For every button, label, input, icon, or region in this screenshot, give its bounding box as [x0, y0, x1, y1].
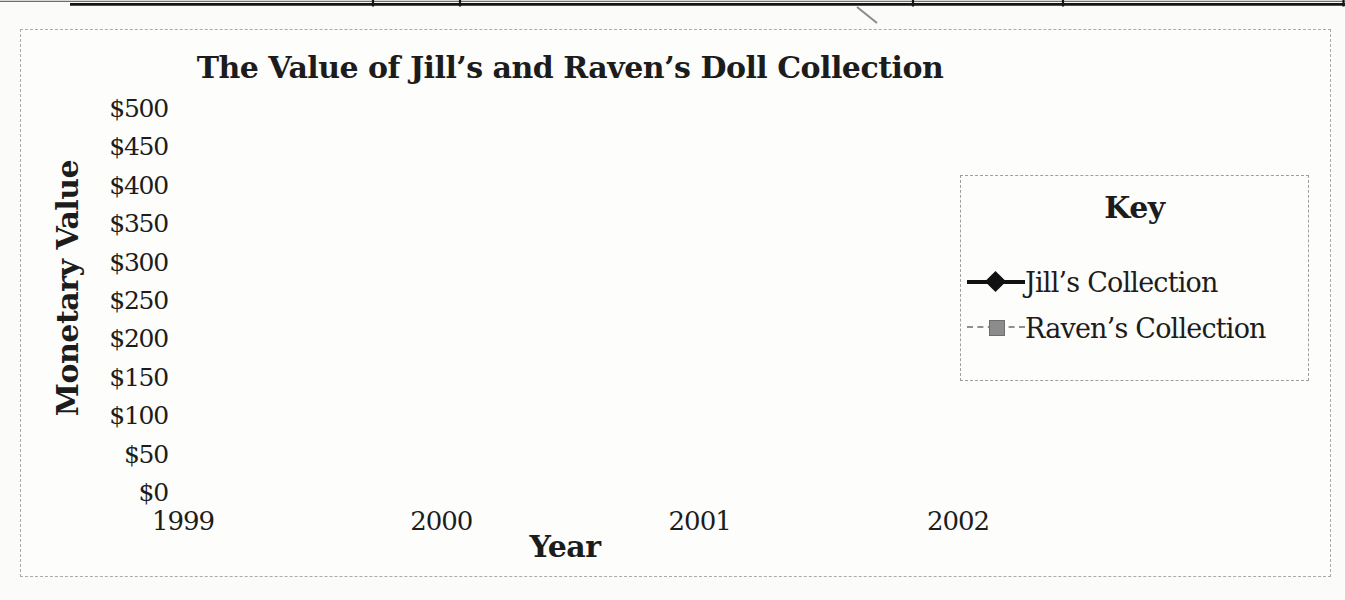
legend-entry-raven: Raven’s Collection: [967, 306, 1302, 350]
jill-line-diamond-icon: [967, 270, 1025, 294]
chart-title: The Value of Jill’s and Raven’s Doll Col…: [175, 50, 965, 90]
y-tick-label: $100: [82, 403, 168, 428]
y-tick-label: $150: [82, 365, 168, 390]
raven-line-square-icon: [967, 316, 1025, 340]
legend-title: Key: [961, 190, 1308, 225]
x-tick-label: 2002: [903, 508, 1013, 534]
pen-mark: [857, 7, 877, 23]
legend-entry-jill: Jill’s Collection: [967, 260, 1302, 304]
legend-label-raven: Raven’s Collection: [1025, 313, 1266, 344]
y-tick-label: $50: [82, 442, 168, 467]
y-tick-label: $200: [82, 326, 168, 351]
y-tick-label: $500: [82, 96, 168, 121]
y-tick-label: $250: [82, 288, 168, 313]
legend-label-jill: Jill’s Collection: [1025, 267, 1218, 298]
y-tick-label: $400: [82, 173, 168, 198]
x-axis-title: Year: [465, 529, 665, 563]
x-tick-label: 1999: [128, 508, 238, 534]
y-tick-label: $0: [82, 480, 168, 505]
legend: Key Jill’s Collection Raven’s Collection: [960, 175, 1309, 381]
y-tick-label: $300: [82, 250, 168, 275]
y-tick-label: $450: [82, 134, 168, 159]
x-tick-label: 2000: [386, 508, 496, 534]
y-tick-label: $350: [82, 211, 168, 236]
x-tick-label: 2001: [645, 508, 755, 534]
